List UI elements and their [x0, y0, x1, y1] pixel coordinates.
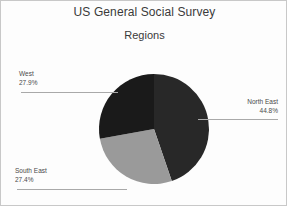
slice-label-west-name: West — [19, 70, 34, 77]
slice-label-west-percent: 27.9% — [19, 78, 37, 87]
slice-label-west: West 27.9% — [19, 69, 37, 87]
leader-line-west — [21, 92, 118, 93]
slice-label-south-east-percent: 27.4% — [15, 175, 47, 184]
pie-slice-west — [99, 74, 154, 139]
slice-label-south-east-name: South East — [15, 167, 47, 174]
slice-label-north-east: North East 44.8% — [247, 97, 278, 115]
slice-label-south-east: South East 27.4% — [15, 166, 47, 184]
leader-line-north-east — [198, 119, 278, 120]
slice-label-north-east-percent: 44.8% — [247, 106, 278, 115]
pie-chart-figure: US General Social Survey Regions West 27… — [0, 0, 287, 206]
leader-line-south-east — [17, 189, 127, 190]
slice-label-north-east-name: North East — [247, 98, 278, 105]
pie-slices — [99, 74, 209, 184]
